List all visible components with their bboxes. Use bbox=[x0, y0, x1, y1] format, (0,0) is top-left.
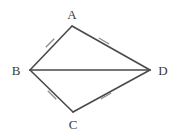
kite-diagram-svg bbox=[0, 0, 174, 137]
congruence-tick-marks bbox=[46, 38, 111, 99]
edge-BA bbox=[30, 26, 72, 70]
edge-BC bbox=[30, 70, 73, 112]
vertex-label-c: C bbox=[69, 118, 78, 131]
geometry-figure: A B C D bbox=[0, 0, 174, 137]
tick-mark-ad bbox=[99, 38, 109, 44]
kite-edges bbox=[30, 26, 150, 112]
vertex-label-b: B bbox=[12, 64, 21, 77]
vertex-label-d: D bbox=[158, 64, 167, 77]
edge-AD bbox=[72, 26, 150, 70]
edge-CD bbox=[73, 70, 150, 112]
vertex-label-a: A bbox=[67, 8, 76, 21]
